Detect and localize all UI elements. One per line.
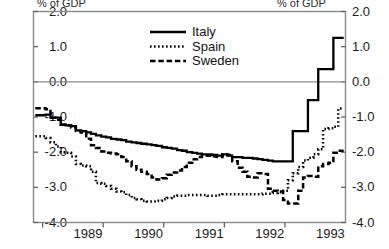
legend-label-sweden: Sweden bbox=[192, 53, 239, 68]
legend-swatches bbox=[150, 32, 186, 61]
series-line-sweden bbox=[35, 108, 343, 203]
legend-label-italy: Italy bbox=[192, 24, 216, 39]
series-line-spain bbox=[35, 109, 343, 202]
chart-container: % of GDP % of GDP 2.01.00.0-1.0-2.0-3.0-… bbox=[0, 0, 389, 249]
data-series-group bbox=[35, 38, 343, 204]
series-line-italy bbox=[35, 38, 343, 161]
legend-label-spain: Spain bbox=[192, 39, 225, 54]
